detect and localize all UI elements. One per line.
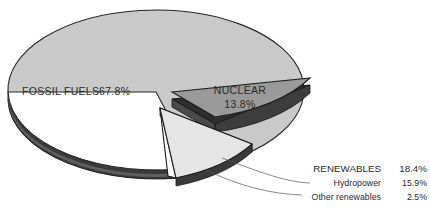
pie-chart: FOSSIL FUELS 67.8% NUCLEAR 13.8% RENEWAB… [0,0,430,218]
label-hydropower-name: 15.9% [402,178,427,188]
leader-line-other-renewables [206,170,302,195]
label-other-renewables-pct: 2.5% [407,192,427,202]
label-renewables-pct: 18.4% [399,163,427,174]
label-nuclear-name: NUCLEAR [214,84,266,96]
label-nuclear-pct: 13.8% [224,98,255,110]
label-fossil-fuels-pct: 67.8% [99,85,130,97]
label-fossil-fuels-name: FOSSIL FUELS [22,85,99,97]
label-hydropower-title: Hydropower [334,178,381,188]
pie-chart-svg: FOSSIL FUELS 67.8% NUCLEAR 13.8% RENEWAB… [0,0,430,218]
label-other-renewables-name: Other renewables [312,192,382,202]
label-renewables-name: RENEWABLES [313,163,381,174]
